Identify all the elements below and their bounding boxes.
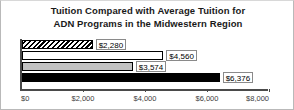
x-axis-tick-mark [83, 89, 84, 92]
x-axis-tick-label: $6,000 [196, 94, 219, 103]
x-axis-tick-label: $0 [21, 94, 29, 103]
x-axis-tick-label: $8,000 [246, 94, 269, 103]
x-axis-tick-mark [145, 89, 146, 92]
x-axis-tick-label: $2,000 [72, 94, 95, 103]
tuition-bar-chart: Tuition Compared with Average Tuition fo… [0, 0, 294, 110]
bar-gray[interactable] [22, 62, 133, 71]
x-axis-tick-label: $4,000 [134, 94, 157, 103]
chart-title-line-1: Tuition Compared with Average Tuition fo… [1, 4, 294, 17]
bar-black[interactable] [22, 73, 220, 82]
chart-title: Tuition Compared with Average Tuition fo… [1, 4, 294, 30]
bar-value-label: $3,574 [136, 61, 166, 72]
x-axis-line [20, 89, 268, 91]
bar-value-label: $2,280 [96, 39, 126, 50]
plot-area: $2,280 $4,560 $3,574 $6,376 $0$2,000$4,0… [20, 39, 268, 89]
bar-value-label: $6,376 [223, 72, 253, 83]
x-axis-tick-mark [269, 89, 270, 92]
bar-white[interactable] [22, 51, 163, 60]
x-axis-tick-mark [207, 89, 208, 92]
bar-hatch[interactable] [22, 40, 93, 49]
chart-title-line-2: ADN Programs in the Midwestern Region [1, 17, 294, 30]
bar-value-label: $4,560 [166, 50, 196, 61]
